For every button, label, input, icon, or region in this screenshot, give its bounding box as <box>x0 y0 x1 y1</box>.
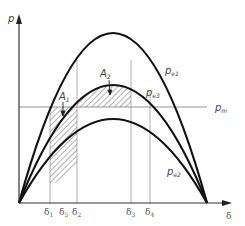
area-a2-label: A2 <box>99 68 111 80</box>
tick-delta5: δ5 <box>59 207 68 218</box>
area-a1-label: A1 <box>58 91 70 103</box>
tick-delta4: δ4 <box>145 207 154 218</box>
x-axis-label: δ <box>226 211 231 221</box>
pe1-label: pe1 <box>164 65 179 77</box>
y-axis-label: p <box>7 13 14 24</box>
tick-delta3: δ3 <box>126 207 135 218</box>
power-angle-diagram: p δ pe1 pe3 pe2 pm A1 A2 δ1 δ5 δ2 δ3 δ4 <box>0 0 245 226</box>
y-axis-arrow-icon <box>16 14 22 24</box>
pe2-label: pe2 <box>166 166 181 178</box>
pe3-label: pe3 <box>145 87 160 99</box>
tick-delta2: δ2 <box>72 207 81 218</box>
pe2-curve <box>19 119 207 203</box>
pm-label: pm <box>214 102 227 114</box>
x-axis-arrow-icon <box>222 200 232 206</box>
tick-delta1: δ1 <box>44 207 53 218</box>
